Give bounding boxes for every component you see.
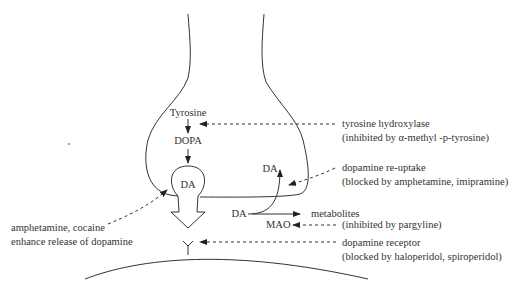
postsynaptic-membrane bbox=[85, 259, 368, 279]
tyrosine-label: Tyrosine bbox=[170, 106, 207, 119]
mao-inhibitor: (inhibited by pargyline) bbox=[342, 218, 442, 231]
dopamine-receptor bbox=[183, 241, 193, 255]
release-enhancers: amphetamine, cocaine bbox=[11, 221, 105, 234]
vesicle-release-arrow bbox=[171, 166, 205, 228]
tyrosine-hydroxylase-label: tyrosine hydroxylase bbox=[342, 117, 430, 130]
reuptake-blockers: (blocked by amphetamine, imipramine) bbox=[342, 175, 508, 188]
tyrosine-hydroxylase-inhibitor: (inhibited by α-methyl -p-tyrosine) bbox=[342, 131, 489, 144]
cytosol-da-label: DA bbox=[231, 207, 246, 220]
reuptake-label: dopamine re-uptake bbox=[342, 161, 426, 174]
presynaptic-terminal-right bbox=[200, 14, 308, 197]
release-description: enhance release of dopamine bbox=[11, 235, 133, 248]
presynaptic-terminal-left bbox=[146, 14, 191, 196]
vesicle-da-label: DA bbox=[180, 178, 195, 191]
receptor-blockers: (blocked by haloperidol, spiroperidol) bbox=[342, 250, 502, 263]
mao-label: MAO bbox=[266, 218, 291, 231]
receptor-label: dopamine receptor bbox=[342, 236, 420, 249]
reuptake-da-label: DA bbox=[262, 162, 277, 175]
dopa-label: DOPA bbox=[174, 134, 202, 147]
